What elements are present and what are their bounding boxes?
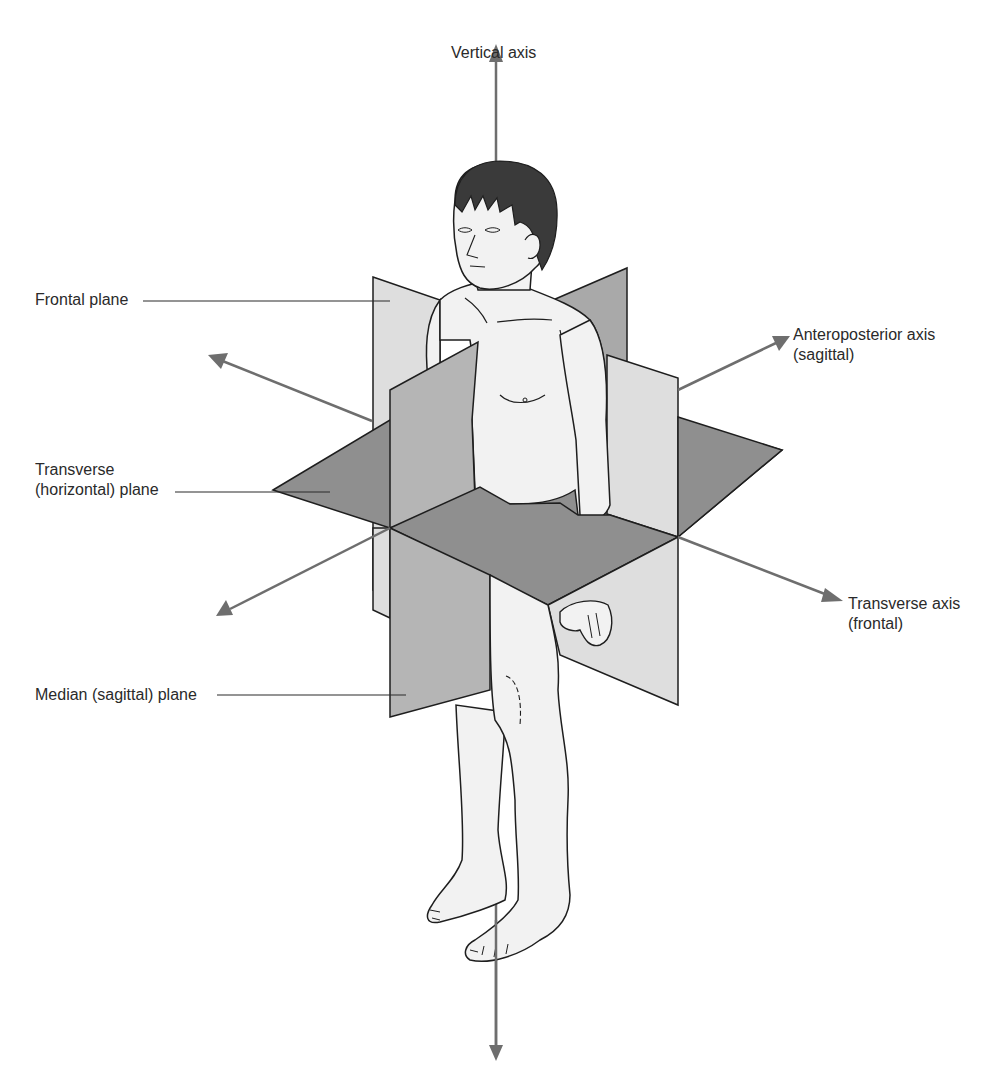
label-transverse-plane: Transverse (horizontal) plane: [35, 460, 159, 500]
label-transverse-axis-line2: (frontal): [848, 614, 960, 634]
transverse-plane-right: [678, 417, 782, 537]
vertical-axis-arrow-down-icon: [489, 1045, 503, 1061]
label-anteroposterior-axis-line1: Anteroposterior axis: [793, 325, 935, 345]
label-transverse-plane-line2: (horizontal) plane: [35, 480, 159, 500]
label-anteroposterior-axis: Anteroposterior axis (sagittal): [793, 325, 935, 365]
anteroposterior-axis-front: [678, 336, 790, 390]
frontal-plane-upper-right: [607, 355, 678, 537]
anatomical-planes-diagram: Vertical axis Frontal plane Transverse (…: [0, 0, 995, 1076]
transverse-axis-right: [678, 537, 843, 602]
label-transverse-axis-line1: Transverse axis: [848, 594, 960, 614]
label-frontal-plane: Frontal plane: [35, 290, 128, 310]
label-anteroposterior-axis-line2: (sagittal): [793, 345, 935, 365]
label-median-plane: Median (sagittal) plane: [35, 685, 197, 705]
transverse-axis-left: [216, 528, 390, 616]
label-transverse-plane-line1: Transverse: [35, 460, 159, 480]
arrow-down-right-icon: [821, 588, 843, 602]
label-vertical-axis: Vertical axis: [451, 43, 536, 63]
diagram-canvas: [0, 0, 995, 1076]
label-transverse-axis: Transverse axis (frontal): [848, 594, 960, 634]
figure-right-leg: [427, 705, 506, 923]
anteroposterior-axis-back: [208, 353, 372, 421]
frontal-plane-lower-left: [373, 528, 390, 618]
